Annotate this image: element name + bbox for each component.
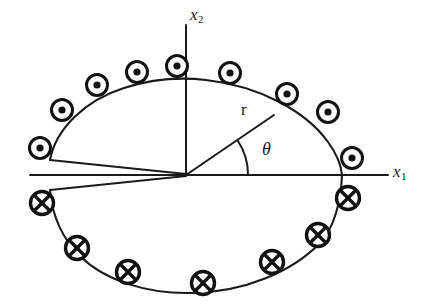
marker-dot-in-circle (167, 56, 188, 77)
x2-axis-label-base: x (190, 5, 198, 24)
marker-cross-in-circle (261, 251, 284, 274)
marker-cross-in-circle (66, 237, 89, 260)
marker-dot-in-circle (342, 148, 363, 169)
polar-coordinate-annotation (186, 115, 274, 175)
marker-cross-in-circle (192, 272, 215, 295)
marker-dot-in-circle (277, 84, 298, 105)
x1-axis-label: x1 (393, 163, 407, 182)
marker-cross-in-circle (31, 192, 54, 215)
marker-cross-in-circle (337, 187, 360, 210)
x1-axis-label-base: x (393, 162, 401, 181)
theta-label: θ (262, 140, 271, 158)
diagram-canvas (0, 0, 432, 308)
marker-cross-in-circle (117, 261, 140, 284)
marker-dot-in-circle (220, 63, 241, 84)
theta-arc (238, 140, 249, 175)
marker-cross-in-circle (307, 224, 330, 247)
marker-dot-in-circle (127, 62, 148, 83)
marker-dot-in-circle (87, 75, 108, 96)
slit-lower-edge (50, 176, 186, 190)
x2-axis-label: x2 (190, 6, 204, 25)
physics-diagram-figure: x2 x1 r θ (0, 0, 432, 308)
into-page-markers (31, 187, 360, 295)
slit-upper-edge (50, 160, 186, 174)
radius-ray-line (186, 115, 274, 175)
marker-dot-in-circle (30, 138, 51, 159)
radius-label: r (241, 101, 247, 118)
x1-axis-label-subscript: 1 (401, 170, 407, 182)
marker-dot-in-circle (52, 100, 73, 121)
marker-dot-in-circle (318, 102, 339, 123)
x2-axis-label-subscript: 2 (198, 13, 204, 25)
